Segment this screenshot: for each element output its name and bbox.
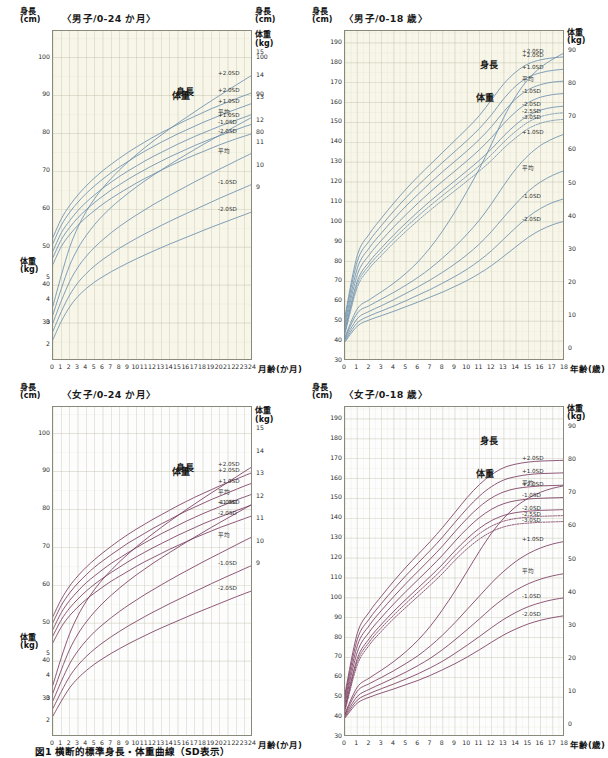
axis-tick-label: 60	[30, 205, 50, 211]
axis-tick-label: 4	[30, 296, 50, 302]
axis-tick-label: 12	[256, 117, 264, 123]
axis-tick-label: 130	[322, 534, 342, 540]
x-axis-tick-label: 12	[485, 740, 497, 746]
x-axis-tick-label: 1	[350, 740, 362, 746]
axis-tick-label: 80	[568, 80, 576, 86]
axis-tick-label: 10	[568, 688, 576, 694]
chart-panel-boy-0-24: 〈男子/0-24 か月〉 100908070605040305432100908…	[0, 0, 304, 376]
axis-caption: 身長(cm)	[312, 8, 332, 25]
plot-area	[52, 30, 252, 360]
axis-tick-label: 100	[30, 430, 50, 436]
axis-tick-label: 140	[322, 514, 342, 520]
sd-curve-label: -2.0SD	[218, 511, 237, 517]
sd-curve-label: -2.0SD	[218, 129, 237, 135]
axis-tick-label: 180	[322, 59, 342, 65]
axis-tick-label: 3	[30, 695, 50, 701]
axis-tick-label: 30	[322, 733, 342, 739]
axis-tick-label: 80	[322, 258, 342, 264]
x-axis-tick-label: 10	[460, 740, 472, 746]
axis-caption: 体重(kg)	[567, 405, 585, 422]
sd-curve-label: -1.0SD	[218, 180, 237, 186]
x-axis-tick-label: 11	[472, 364, 484, 370]
axis-tick-label: 70	[30, 167, 50, 173]
axis-tick-label: 70	[30, 543, 50, 549]
sd-curve-label: +1.0SD	[218, 113, 239, 119]
x-axis-tick-label: 8	[436, 740, 448, 746]
axis-tick-label: 50	[322, 317, 342, 323]
axis-tick-label: 170	[322, 455, 342, 461]
axis-tick-label: 3	[30, 319, 50, 325]
sd-curve-label: -1.0SD	[522, 89, 541, 95]
x-axis-tick-label: 9	[448, 740, 460, 746]
height-series-label: 身長	[480, 434, 498, 447]
axis-tick-label: 90	[322, 614, 342, 620]
axis-caption: 身長(cm)	[20, 384, 40, 401]
sd-curve-label: -1.0SD	[218, 561, 237, 567]
x-axis-label: 年齢(歳)	[570, 362, 605, 374]
axis-tick-label: 190	[322, 39, 342, 45]
curve--2.0SD	[345, 616, 564, 718]
panel-title: 〈男子/0-24 か月〉	[62, 11, 156, 25]
x-axis-tick-label: 3	[375, 740, 387, 746]
sd-curve-label: -2.0SD	[522, 102, 541, 108]
axis-tick-label: 60	[322, 297, 342, 303]
axis-tick-label: 80	[322, 634, 342, 640]
axis-tick-label: 40	[322, 713, 342, 719]
axis-tick-label: 100	[30, 54, 50, 60]
axis-tick-label: 5	[30, 274, 50, 280]
weight-series-label: 体重	[476, 91, 494, 104]
sd-curve-label: +1.0SD	[218, 99, 239, 105]
panel-title: 〈男子/0-18 歳〉	[344, 11, 428, 25]
sd-curve-label: +1.0SD	[218, 479, 239, 485]
x-axis-tick-label: 10	[460, 364, 472, 370]
sd-curve-label: -2.0SD	[218, 586, 237, 592]
sd-curve-label: -2.0SD	[522, 217, 541, 223]
axis-tick-label: 11	[256, 139, 264, 145]
sd-curve-label: 平均	[218, 533, 230, 539]
axis-tick-label: 10	[256, 162, 264, 168]
axis-caption: 体重(kg)	[255, 407, 273, 424]
x-axis-tick-label: 7	[424, 740, 436, 746]
axis-tick-label: 130	[322, 158, 342, 164]
axis-tick-label: 160	[322, 475, 342, 481]
axis-tick-label: 2	[30, 341, 50, 347]
sd-curve-label: +1.0SD	[218, 500, 239, 506]
axis-tick-label: 13	[256, 94, 264, 100]
axis-tick-label: 140	[322, 138, 342, 144]
axis-tick-label: 120	[322, 178, 342, 184]
axis-tick-label: 80	[256, 129, 264, 135]
x-axis-tick-label: 24	[246, 740, 258, 746]
axis-tick-label: 150	[322, 494, 342, 500]
axis-tick-label: 40	[568, 589, 576, 595]
x-axis-tick-label: 16	[534, 740, 546, 746]
x-axis-tick-label: 0	[338, 740, 350, 746]
panel-title: 〈女子/0-24 か月〉	[62, 387, 156, 401]
sd-curve-label: -1.0SD	[218, 120, 237, 126]
axis-tick-label: 10	[256, 538, 264, 544]
axis-tick-label: 30	[568, 246, 576, 252]
x-axis-tick-label: 6	[411, 740, 423, 746]
x-axis-tick-label: 0	[338, 364, 350, 370]
axis-tick-label: 60	[568, 522, 576, 528]
plot-area	[52, 406, 252, 736]
axis-tick-label: 60	[30, 581, 50, 587]
axis-tick-label: 40	[568, 213, 576, 219]
axis-tick-label: 100	[322, 594, 342, 600]
axis-tick-label: 90	[30, 467, 50, 473]
x-axis-label: 月齢(か月)	[258, 362, 302, 374]
sd-curve-label: +2.0SD	[218, 71, 239, 77]
axis-tick-label: 50	[568, 556, 576, 562]
axis-tick-label: 70	[322, 653, 342, 659]
sd-curve-label: 平均	[522, 569, 534, 575]
axis-tick-label: 80	[568, 456, 576, 462]
x-axis-tick-label: 5	[399, 740, 411, 746]
x-axis-tick-label: 13	[497, 740, 509, 746]
sd-curve-label: -2.0SD	[218, 207, 237, 213]
curve--2.0SD	[53, 211, 252, 339]
x-axis-tick-label: 14	[509, 364, 521, 370]
weight-series-label: 体重	[172, 465, 190, 478]
sd-curve-label: -1.0SD	[522, 594, 541, 600]
axis-tick-label: 10	[568, 312, 576, 318]
weight-series-label: 体重	[476, 467, 494, 480]
